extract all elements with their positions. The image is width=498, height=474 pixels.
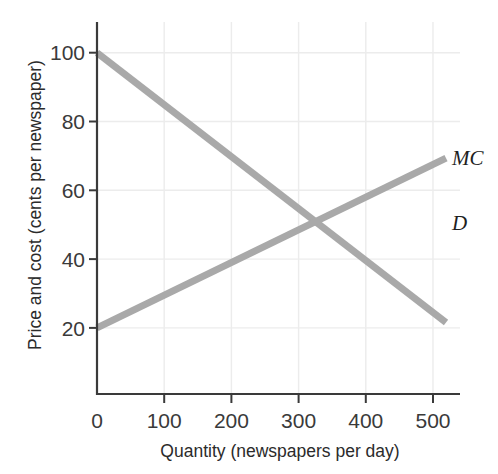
x-tick-label-500: 500 — [415, 409, 450, 432]
x-tick-label-300: 300 — [281, 409, 316, 432]
series-label-d: D — [451, 211, 467, 235]
chart-figure: 100 80 60 40 20 0 100 200 300 400 500 MC… — [0, 0, 498, 474]
x-tick-label-100: 100 — [147, 409, 182, 432]
y-tick-label-60: 60 — [62, 179, 85, 202]
y-tick-label-100: 100 — [50, 41, 85, 64]
x-axis-ticks — [164, 394, 433, 403]
y-axis-title: Price and cost (cents per newspaper) — [25, 60, 45, 350]
series-label-mc: MC — [451, 146, 484, 170]
y-tick-label-40: 40 — [62, 248, 85, 271]
y-tick-label-20: 20 — [62, 317, 85, 340]
series-line-d — [97, 53, 446, 323]
economics-line-chart: 100 80 60 40 20 0 100 200 300 400 500 MC… — [0, 0, 498, 474]
y-tick-label-80: 80 — [62, 110, 85, 133]
y-axis-ticks — [89, 53, 97, 328]
x-tick-label-0: 0 — [91, 409, 103, 432]
x-tick-label-400: 400 — [348, 409, 383, 432]
x-tick-label-200: 200 — [214, 409, 249, 432]
x-axis-title: Quantity (newspapers per day) — [160, 441, 399, 461]
